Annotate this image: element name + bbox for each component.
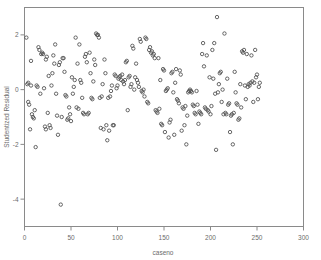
- data-point: [52, 54, 55, 57]
- data-point: [178, 69, 181, 72]
- x-tick-label: 0: [23, 234, 27, 241]
- data-point: [29, 84, 32, 87]
- data-point: [257, 85, 260, 88]
- data-point: [103, 58, 106, 61]
- data-point: [63, 70, 66, 73]
- data-point: [217, 82, 220, 85]
- data-point: [76, 62, 79, 65]
- data-point: [200, 52, 203, 55]
- data-point: [137, 85, 140, 88]
- data-point: [210, 104, 213, 107]
- data-point: [67, 106, 70, 109]
- data-point: [245, 52, 248, 55]
- data-point: [228, 130, 231, 133]
- data-point: [47, 74, 50, 77]
- data-point: [163, 130, 166, 133]
- data-point: [60, 115, 63, 118]
- data-point: [78, 43, 81, 46]
- data-point: [256, 98, 259, 101]
- data-point: [73, 78, 76, 81]
- data-point: [50, 84, 53, 87]
- x-axis-ticks: 050100150200250300: [23, 227, 310, 241]
- data-point: [46, 111, 49, 114]
- data-point: [183, 124, 186, 127]
- y-tick-label: 2: [15, 31, 19, 38]
- data-points-layer: [25, 15, 262, 206]
- data-point: [244, 98, 247, 101]
- data-point: [159, 78, 162, 81]
- data-point: [104, 72, 107, 75]
- data-point: [28, 128, 31, 131]
- scatter-plot-chart: 050100150200250300 20-2-4 caseno Student…: [0, 0, 321, 260]
- data-point: [39, 92, 42, 95]
- data-point: [173, 81, 176, 84]
- data-point: [53, 62, 56, 65]
- data-point: [51, 72, 54, 75]
- data-point: [29, 59, 32, 62]
- data-point: [54, 92, 57, 95]
- data-point: [221, 88, 224, 91]
- data-point: [250, 54, 253, 57]
- data-point: [226, 77, 229, 80]
- data-point: [106, 139, 109, 142]
- y-tick-label: -2: [13, 141, 19, 148]
- data-point: [253, 48, 256, 51]
- data-point: [85, 61, 88, 64]
- data-point: [71, 92, 74, 95]
- data-point: [185, 143, 188, 146]
- data-point: [195, 89, 198, 92]
- data-point: [239, 82, 242, 85]
- data-point: [42, 87, 45, 90]
- x-tick-label: 250: [252, 234, 263, 241]
- data-point: [186, 114, 189, 117]
- data-point: [196, 103, 199, 106]
- data-point: [231, 143, 234, 146]
- data-point: [258, 81, 261, 84]
- data-point: [88, 51, 91, 54]
- data-point: [213, 41, 216, 44]
- data-point: [239, 106, 242, 109]
- data-point: [70, 76, 73, 79]
- data-point: [209, 113, 212, 116]
- data-point: [56, 133, 59, 136]
- data-point: [205, 54, 208, 57]
- data-point: [223, 32, 226, 35]
- x-tick-label: 300: [298, 234, 309, 241]
- data-point: [92, 80, 95, 83]
- data-point: [74, 36, 77, 39]
- data-point: [33, 108, 36, 111]
- data-point: [143, 95, 146, 98]
- data-point: [133, 88, 136, 91]
- data-point: [157, 56, 160, 59]
- x-tick-label: 200: [205, 234, 216, 241]
- data-point: [167, 136, 170, 139]
- data-point: [105, 124, 108, 127]
- data-point: [68, 113, 71, 116]
- data-point: [93, 63, 96, 66]
- x-tick-label: 50: [67, 234, 75, 241]
- data-point: [89, 72, 92, 75]
- data-point: [134, 62, 137, 65]
- data-point: [233, 70, 236, 73]
- data-point: [197, 122, 200, 125]
- data-point: [201, 41, 204, 44]
- data-point: [212, 77, 215, 80]
- data-point: [34, 145, 37, 148]
- plot-svg: 050100150200250300 20-2-4 caseno Student…: [0, 0, 321, 260]
- data-point: [172, 91, 175, 94]
- data-point: [173, 133, 176, 136]
- data-point: [53, 43, 56, 46]
- data-point: [208, 76, 211, 79]
- data-point: [215, 15, 218, 18]
- data-point: [109, 89, 112, 92]
- data-point: [55, 114, 58, 117]
- data-point: [158, 107, 161, 110]
- data-point: [110, 84, 113, 87]
- data-point: [59, 203, 62, 206]
- data-point: [25, 36, 28, 39]
- y-tick-label: -4: [13, 196, 19, 203]
- data-point: [234, 91, 237, 94]
- data-point: [214, 148, 217, 151]
- data-point: [174, 67, 177, 70]
- x-axis-title: caseno: [153, 249, 174, 256]
